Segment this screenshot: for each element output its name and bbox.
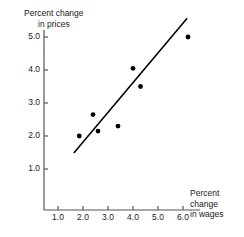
y-tick-label: 4.0 <box>18 65 40 74</box>
data-point-marker <box>77 134 82 139</box>
x-tick-label: 2.0 <box>71 213 95 222</box>
axes <box>44 30 200 210</box>
y-tick-label: 3.0 <box>18 98 40 107</box>
y-tick-label: 5.0 <box>18 32 40 41</box>
data-point-marker <box>186 35 191 40</box>
y-tick-label: 1.0 <box>18 164 40 173</box>
tick-marks <box>44 37 183 210</box>
x-tick-label: 1.0 <box>46 213 70 222</box>
y-tick-label: 2.0 <box>18 131 40 140</box>
data-point-marker <box>96 129 101 134</box>
data-point-marker <box>91 112 96 117</box>
scatter-plot-figure: Percent change in prices Percent change … <box>0 0 244 237</box>
data-point-marker <box>116 124 121 129</box>
data-points <box>77 35 191 139</box>
x-tick-label: 6.0 <box>171 213 195 222</box>
x-tick-label: 4.0 <box>121 213 145 222</box>
x-tick-label: 3.0 <box>96 213 120 222</box>
x-tick-label: 5.0 <box>146 213 170 222</box>
data-point-marker <box>131 66 136 71</box>
trend-line <box>74 19 187 153</box>
data-point-marker <box>138 84 143 89</box>
trend-line-segment <box>74 19 187 153</box>
